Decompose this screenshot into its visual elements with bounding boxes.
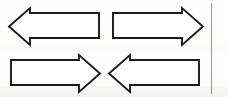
arrow-top-right-icon	[113, 8, 203, 45]
arrow-bottom-right-icon	[109, 55, 199, 92]
diagram-canvas	[0, 0, 228, 97]
arrow-top-left-icon	[9, 8, 99, 45]
arrows-vector-layer	[0, 0, 228, 97]
arrow-bottom-left-icon	[11, 55, 100, 92]
